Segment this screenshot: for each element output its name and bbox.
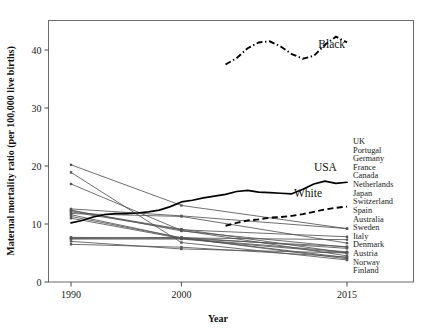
annotation-usa: USA (314, 161, 338, 173)
country-data-point (70, 240, 72, 242)
country-data-point (180, 204, 182, 206)
country-data-point (70, 183, 72, 185)
x-tick-label: 1990 (61, 289, 81, 300)
y-tick-label: 40 (32, 45, 42, 56)
country-data-point (70, 209, 72, 211)
country-data-point (180, 238, 182, 240)
country-data-point (346, 236, 348, 238)
x-tick-label: 2015 (337, 289, 357, 300)
country-data-point (70, 243, 72, 245)
x-tick-label: 2000 (171, 289, 191, 300)
country-data-point (346, 259, 348, 261)
country-data-point (346, 227, 348, 229)
country-data-point (180, 215, 182, 217)
y-tick-label: 10 (32, 219, 42, 230)
chart-canvas: 010203040 199020002015 BlackUSAWhite Mat… (0, 0, 427, 330)
maternal-mortality-chart: 010203040 199020002015 BlackUSAWhite Mat… (0, 0, 427, 330)
country-data-point (346, 252, 348, 254)
country-data-point (346, 242, 348, 244)
country-data-point (180, 246, 182, 248)
annotation-black: Black (318, 38, 345, 50)
country-data-point (70, 171, 72, 173)
country-data-point (346, 245, 348, 247)
country-data-point (346, 255, 348, 257)
y-tick-label: 30 (32, 103, 42, 114)
x-axis-title: Year (208, 313, 229, 324)
legend-item-finland: Finland (353, 266, 379, 275)
country-data-point (70, 164, 72, 166)
y-tick-label: 0 (37, 277, 42, 288)
y-tick-label: 20 (32, 161, 42, 172)
country-data-point (70, 238, 72, 240)
country-data-point (180, 241, 182, 243)
y-axis-title: Maternal mortality ratio (per 100,000 li… (5, 46, 17, 256)
annotation-white: White (294, 187, 322, 199)
country-data-point (70, 215, 72, 217)
country-data-point (180, 229, 182, 231)
country-data-point (346, 238, 348, 240)
